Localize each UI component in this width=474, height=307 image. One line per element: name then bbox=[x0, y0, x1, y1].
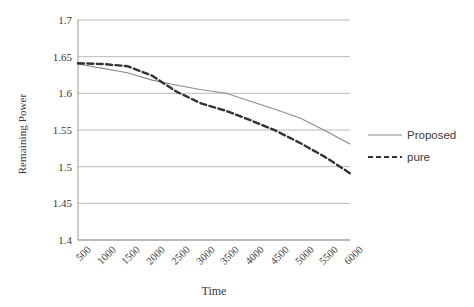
gridlines bbox=[78, 20, 350, 240]
legend-item-pure: pure bbox=[368, 146, 472, 168]
legend-item-proposed: Proposed bbox=[368, 124, 472, 146]
chart-legend: Proposed pure bbox=[368, 124, 472, 168]
series-lines bbox=[78, 63, 350, 173]
legend-label-pure: pure bbox=[407, 151, 430, 163]
series-line-pure bbox=[78, 63, 350, 173]
series-line-proposed bbox=[78, 64, 350, 144]
legend-swatch-dashed-icon bbox=[368, 152, 402, 162]
legend-swatch-solid-icon bbox=[368, 130, 402, 140]
legend-label-proposed: Proposed bbox=[407, 129, 456, 141]
chart-figure: Remaining Power 1.71.651.61.551.51.451.4… bbox=[0, 0, 474, 307]
x-axis-title: Time bbox=[78, 284, 350, 299]
